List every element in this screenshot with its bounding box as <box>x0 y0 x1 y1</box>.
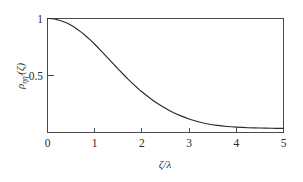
y-tick-labels: 0.5 1 <box>29 13 44 82</box>
x-tick-label-5: 5 <box>281 137 287 149</box>
figure-container: 0 1 2 3 4 5 0.5 1 ρηη'(ζ) ζ/λ <box>0 0 303 182</box>
svg-text:ζ/λ: ζ/λ <box>159 158 172 171</box>
y-axis-ticks <box>48 19 54 76</box>
correlation-function-chart: 0 1 2 3 4 5 0.5 1 ρηη'(ζ) ζ/λ <box>0 0 303 182</box>
y-tick-label-1: 1 <box>37 13 43 25</box>
plot-frame <box>48 19 284 133</box>
x-tick-labels: 0 1 2 3 4 5 <box>45 137 287 149</box>
y-axis-title-subscript: ηη' <box>20 74 29 83</box>
correlation-curve <box>48 19 284 129</box>
x-axis-title: ζ/λ <box>159 158 172 171</box>
x-axis-title-denominator: λ <box>165 158 171 170</box>
svg-text:ρηη'(ζ): ρηη'(ζ) <box>14 63 29 90</box>
x-tick-label-4: 4 <box>233 137 239 149</box>
y-tick-label-0.5: 0.5 <box>29 70 44 82</box>
y-axis-title: ρηη'(ζ) <box>14 63 29 90</box>
x-tick-label-0: 0 <box>45 137 51 149</box>
x-tick-label-2: 2 <box>139 137 145 149</box>
x-tick-label-3: 3 <box>186 137 192 149</box>
x-tick-label-1: 1 <box>92 137 98 149</box>
y-axis-title-argument: (ζ) <box>14 63 27 75</box>
